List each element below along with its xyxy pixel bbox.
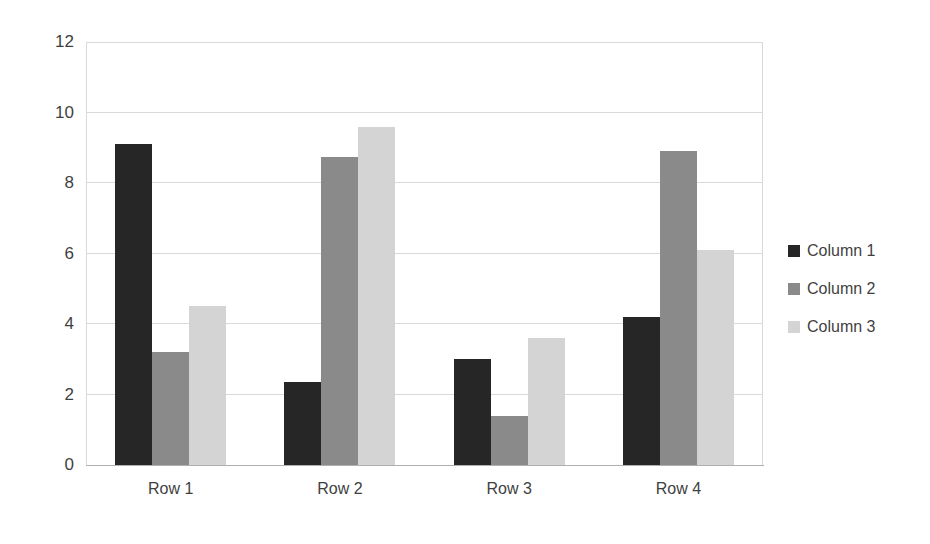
y-tick-label: 12: [14, 32, 74, 52]
bar: [189, 306, 226, 465]
x-axis-labels: Row 1Row 2Row 3Row 4: [86, 480, 763, 510]
legend-label: Column 1: [807, 242, 875, 260]
y-tick-label: 4: [14, 314, 74, 334]
y-tick-label: 8: [14, 173, 74, 193]
x-tick-label-4: Row 4: [656, 480, 701, 498]
x-tick-label-1: Row 1: [148, 480, 193, 498]
legend-item[interactable]: Column 2: [788, 270, 918, 308]
bar: [697, 250, 734, 465]
legend-swatch-icon: [788, 321, 800, 333]
x-axis-line: [86, 465, 764, 466]
x-tick-label-3: Row 3: [486, 480, 531, 498]
bar: [115, 144, 152, 465]
legend-label: Column 2: [807, 280, 875, 298]
bar: [454, 359, 491, 465]
bar: [528, 338, 565, 465]
legend-item[interactable]: Column 1: [788, 232, 918, 270]
legend-swatch-icon: [788, 283, 800, 295]
bar-chart: 024681012 Row 1Row 2Row 3Row 4 Column 1C…: [0, 0, 930, 544]
y-axis: 024681012: [0, 0, 74, 544]
legend-label: Column 3: [807, 318, 875, 336]
legend: Column 1Column 2Column 3: [788, 232, 918, 346]
y-tick-label: 2: [14, 385, 74, 405]
legend-swatch-icon: [788, 245, 800, 257]
x-tick-label-2: Row 2: [317, 480, 362, 498]
bar: [660, 151, 697, 465]
bar: [623, 317, 660, 465]
bar: [491, 416, 528, 465]
bar: [284, 382, 321, 465]
y-tick-label: 0: [14, 455, 74, 475]
legend-item[interactable]: Column 3: [788, 308, 918, 346]
bar: [358, 127, 395, 465]
bar: [321, 157, 358, 465]
y-tick-label: 10: [14, 103, 74, 123]
y-tick-label: 6: [14, 244, 74, 264]
bars-layer: [86, 42, 763, 465]
bar: [152, 352, 189, 465]
